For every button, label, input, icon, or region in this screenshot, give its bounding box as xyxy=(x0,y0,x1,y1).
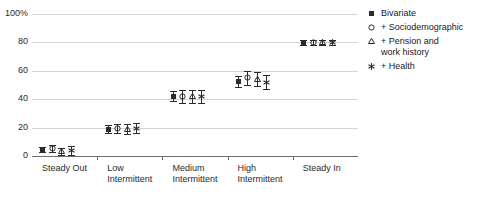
x-axis-category-label: Steady In xyxy=(303,163,373,174)
x-axis-tick xyxy=(162,156,163,160)
gridline xyxy=(32,71,358,72)
legend-item: + Health xyxy=(366,61,484,72)
x-axis-category-label: Steady Out xyxy=(42,163,112,174)
series-marker-open-triangle xyxy=(318,38,327,47)
x-axis-tick xyxy=(293,156,294,160)
series-marker-open-circle xyxy=(113,124,122,133)
error-bar-cap xyxy=(198,103,205,104)
x-axis-line xyxy=(32,156,358,157)
legend-marker-open-circle xyxy=(366,22,377,33)
error-bar-cap xyxy=(235,87,242,88)
error-bar-cap xyxy=(244,85,251,86)
error-bar-cap xyxy=(263,89,270,90)
legend-item: Bivariate xyxy=(366,8,484,19)
error-bar-cap xyxy=(189,103,196,104)
series-marker-filled-square xyxy=(169,92,178,101)
legend-marker-asterisk xyxy=(366,61,377,72)
x-axis-tick xyxy=(228,156,229,160)
x-axis-category-label: Low Intermittent xyxy=(107,163,177,185)
x-axis-category-label: High Intermittent xyxy=(238,163,308,185)
legend-item: + Sociodemographic xyxy=(366,22,484,33)
series-marker-filled-square xyxy=(104,125,113,134)
error-bar-cap xyxy=(254,86,261,87)
error-bar-cap xyxy=(179,103,186,104)
series-marker-open-circle xyxy=(48,144,57,153)
gridline xyxy=(32,128,358,129)
series-marker-open-circle xyxy=(178,92,187,101)
legend-item-label: + Health xyxy=(381,61,415,72)
series-marker-open-circle xyxy=(243,73,252,82)
error-bar-cap xyxy=(189,90,196,91)
series-marker-open-triangle xyxy=(253,75,262,84)
series-marker-filled-square xyxy=(299,38,308,47)
legend-item-label: + Sociodemographic xyxy=(381,22,463,33)
series-marker-asterisk xyxy=(132,124,141,133)
error-bar-cap xyxy=(198,90,205,91)
series-marker-asterisk xyxy=(67,146,76,155)
error-bar-cap xyxy=(124,134,131,135)
x-axis-tick xyxy=(97,156,98,160)
series-marker-open-triangle xyxy=(57,147,66,156)
series-marker-asterisk xyxy=(262,78,271,87)
series-marker-asterisk xyxy=(197,92,206,101)
x-axis-category-label: Medium Intermittent xyxy=(172,163,242,185)
error-bar-cap xyxy=(133,133,140,134)
chart-container: 020406080100%Steady OutLow IntermittentM… xyxy=(0,0,484,199)
series-marker-filled-square xyxy=(38,145,47,154)
legend-item-label: Bivariate xyxy=(381,8,416,19)
series-marker-open-circle xyxy=(309,38,318,47)
y-axis-tick-label: 0 xyxy=(23,151,28,160)
y-axis-tick-label: 80 xyxy=(18,37,28,46)
series-marker-open-triangle xyxy=(188,92,197,101)
error-bar-cap xyxy=(244,71,251,72)
legend-item-label: + Pension and work history xyxy=(381,36,439,58)
series-marker-open-triangle xyxy=(123,125,132,134)
y-axis-tick-label: 60 xyxy=(18,66,28,75)
y-axis-tick-label: 20 xyxy=(18,123,28,132)
y-axis-tick-label: 100% xyxy=(5,9,28,18)
chart-legend: Bivariate+ Sociodemographic+ Pension and… xyxy=(366,8,484,75)
legend-marker-open-triangle xyxy=(366,36,377,47)
gridline xyxy=(32,14,358,15)
error-bar-cap xyxy=(254,72,261,73)
series-marker-filled-square xyxy=(234,77,243,86)
y-axis-tick-label: 40 xyxy=(18,94,28,103)
error-bar-cap xyxy=(263,75,270,76)
series-marker-asterisk xyxy=(328,38,337,47)
legend-item: + Pension and work history xyxy=(366,36,484,58)
legend-marker-filled-square xyxy=(366,8,377,19)
error-bar-cap xyxy=(179,90,186,91)
error-bar-cap xyxy=(170,101,177,102)
